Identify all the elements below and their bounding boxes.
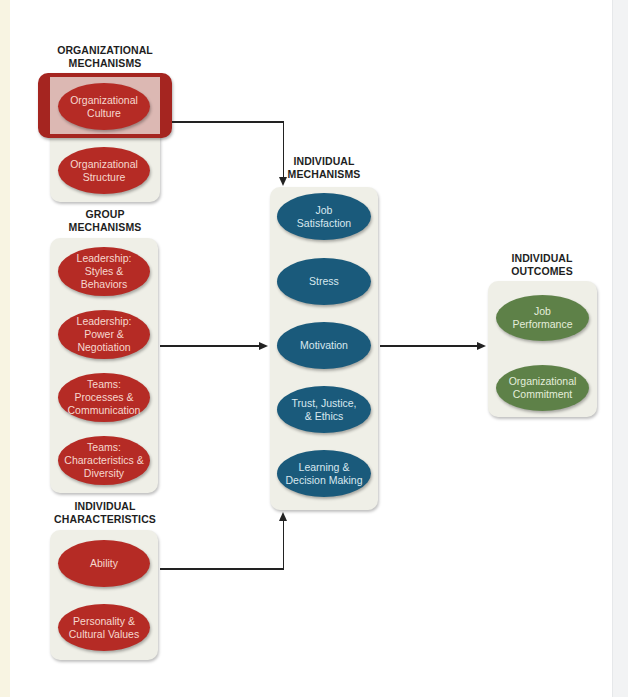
arrowhead-right-icon	[477, 342, 486, 350]
node-teams-processes-communication[interactable]: Teams: Processes & Communication	[58, 373, 150, 422]
group-mechanisms-heading: GROUP MECHANISMS	[40, 208, 170, 234]
connector-characteristics-vertical	[283, 520, 285, 569]
individual-outcomes-heading: INDIVIDUAL OUTCOMES	[478, 252, 606, 278]
left-margin-strip	[0, 0, 10, 697]
node-organizational-culture[interactable]: Organizational Culture	[58, 83, 150, 130]
node-personality-cultural-values[interactable]: Personality & Cultural Values	[58, 604, 150, 651]
node-ability[interactable]: Ability	[58, 540, 150, 587]
node-job-satisfaction[interactable]: Job Satisfaction	[277, 193, 371, 240]
connector-culture-vertical	[283, 121, 285, 178]
organizational-mechanisms-heading: ORGANIZATIONAL MECHANISMS	[40, 44, 170, 70]
node-stress[interactable]: Stress	[277, 258, 371, 305]
node-motivation[interactable]: Motivation	[277, 322, 371, 369]
arrowhead-right-icon	[259, 342, 268, 350]
node-teams-characteristics-diversity[interactable]: Teams: Characteristics & Diversity	[58, 436, 150, 485]
connector-outcomes	[380, 345, 478, 347]
connector-group	[160, 345, 260, 347]
node-leadership-styles-behaviors[interactable]: Leadership: Styles & Behaviors	[58, 247, 150, 296]
right-margin-strip	[612, 0, 628, 697]
arrowhead-up-icon	[279, 512, 287, 521]
node-learning-decision-making[interactable]: Learning & Decision Making	[277, 450, 371, 497]
individual-characteristics-heading: INDIVIDUAL CHARACTERISTICS	[40, 500, 170, 526]
node-organizational-structure[interactable]: Organizational Structure	[58, 147, 150, 194]
arrowhead-down-icon	[279, 177, 287, 186]
node-organizational-commitment[interactable]: Organizational Commitment	[496, 365, 589, 411]
connector-culture-horizontal	[172, 121, 284, 123]
connector-characteristics-horizontal	[160, 568, 284, 570]
node-trust-justice-ethics[interactable]: Trust, Justice, & Ethics	[277, 386, 371, 433]
node-leadership-power-negotiation[interactable]: Leadership: Power & Negotiation	[58, 310, 150, 359]
node-job-performance[interactable]: Job Performance	[496, 295, 589, 341]
